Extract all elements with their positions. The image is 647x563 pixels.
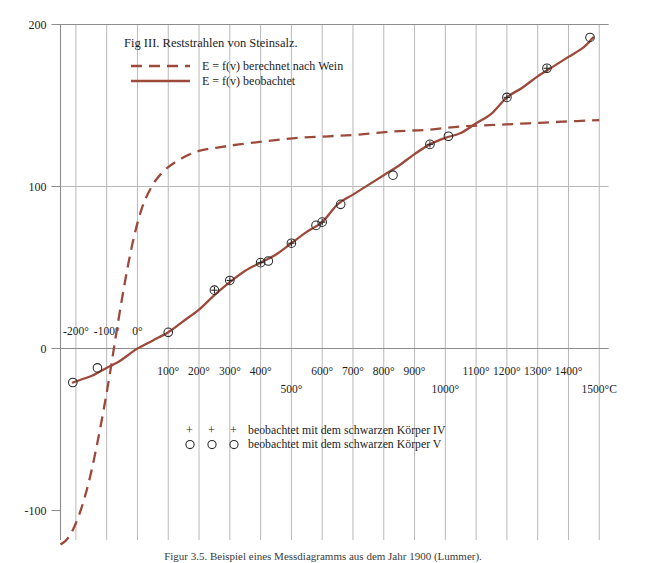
y-tick-label: 100	[29, 180, 47, 194]
series-curve-solid	[73, 37, 593, 382]
legend-entry-dashed: E = f(v) berechnet nach Wein	[131, 59, 343, 73]
x-tick-label: 300°	[219, 365, 241, 377]
marker-key-row-plus: + + + beobachtet mit dem schwarzen Körpe…	[186, 423, 446, 437]
y-tick-label: 0	[41, 342, 47, 356]
legend-title: Fig III. Reststrahlen von Steinsalz.	[124, 36, 298, 50]
x-tick-label: -200°	[63, 325, 89, 337]
plus-icon: +	[230, 423, 237, 437]
figure-caption: Figur 3.5. Beispiel eines Messdiagramms …	[164, 550, 482, 563]
x-tick-label: 900°	[404, 365, 426, 377]
y-tick-label: -100	[25, 504, 47, 518]
x-tick-label: 1500°C	[582, 383, 618, 395]
marker-key-label-v: beobachtet mit dem schwarzen Körper V	[248, 437, 442, 451]
data-marker-circle	[93, 364, 102, 373]
x-tick-label: 200°	[188, 365, 210, 377]
marker-key-label-iv: beobachtet mit dem schwarzen Körper IV	[248, 423, 446, 437]
circle-icon	[208, 440, 216, 448]
y-tick-label: 200	[29, 18, 47, 32]
plus-icon: +	[208, 423, 215, 437]
x-tick-label: 100°	[157, 365, 179, 377]
x-tick-label: 1200°	[493, 365, 521, 377]
circle-icon	[186, 440, 194, 448]
legend-entry-solid: E = f(v) beobachtet	[131, 74, 296, 88]
plus-icon: +	[186, 423, 193, 437]
series-layer	[61, 37, 600, 544]
chart-figure: 2001000-100-200°-100°0°100°200°300°400°5…	[0, 0, 647, 563]
circle-icon	[230, 440, 238, 448]
x-tick-label: 500°	[280, 383, 302, 395]
legend: Fig III. Reststrahlen von Steinsalz. E =…	[124, 36, 343, 88]
x-tick-label: 0°	[132, 325, 143, 337]
x-tick-label: 1300°	[524, 365, 552, 377]
data-marker-circle	[389, 171, 398, 180]
marker-key: + + + beobachtet mit dem schwarzen Körpe…	[186, 423, 446, 451]
legend-label-dashed: E = f(v) berechnet nach Wein	[202, 59, 343, 73]
legend-label-solid: E = f(v) beobachtet	[202, 74, 296, 88]
x-tick-label: 400°	[250, 365, 272, 377]
x-tick-label: 1100°	[463, 365, 491, 377]
x-tick-label: 1000°	[432, 383, 460, 395]
grid-layer	[61, 25, 609, 541]
x-tick-label: 700°	[342, 365, 364, 377]
x-tick-label: 800°	[373, 365, 395, 377]
axis-layer	[52, 25, 609, 541]
marker-key-row-circle: beobachtet mit dem schwarzen Körper V	[186, 437, 442, 451]
x-tick-label: 1400°	[555, 365, 583, 377]
x-tick-label: 600°	[311, 365, 333, 377]
